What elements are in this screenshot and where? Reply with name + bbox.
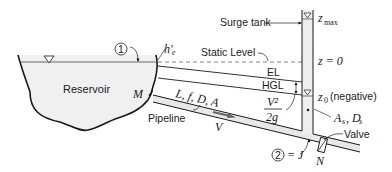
tank-params-s2: s xyxy=(359,117,362,126)
point-j-marker xyxy=(308,140,311,143)
z0-label: z xyxy=(317,90,323,104)
el-label: EL xyxy=(267,66,280,78)
surge-tank-diagram: Surge tank z max z = 0 Static Level EL H… xyxy=(0,0,392,172)
tank-params-a: A xyxy=(333,111,342,125)
hgl-label: HGL xyxy=(262,79,284,91)
he-sub: e xyxy=(172,48,176,57)
tank-marker xyxy=(307,109,310,112)
arrow-down-icon xyxy=(295,91,298,94)
z0-sub: 0 xyxy=(324,96,328,105)
point-m-marker xyxy=(149,94,152,97)
pipeline-label: Pipeline xyxy=(148,112,186,124)
static-level-label: Static Level xyxy=(201,46,255,58)
point-m-label: M xyxy=(132,87,144,101)
velocity-head-denominator: 2g xyxy=(266,110,278,124)
static-level-leader xyxy=(258,53,268,61)
point-2-label: 2 xyxy=(275,149,281,161)
surge-tank xyxy=(302,10,313,134)
z-zero-label: z = 0 xyxy=(317,54,343,68)
valve-label: Valve xyxy=(344,128,370,140)
point-n-label: N xyxy=(315,154,325,168)
zmax-label: z xyxy=(317,11,323,25)
velocity-head-numerator: V² xyxy=(267,95,278,109)
z0-note: (negative) xyxy=(330,90,377,102)
arrow-up-icon xyxy=(295,82,298,85)
velocity-label: V xyxy=(215,120,224,134)
tank-params-leader xyxy=(314,109,331,117)
pipeline-bottom-wall xyxy=(153,102,360,152)
point-j-label: = J xyxy=(287,148,304,162)
zmax-sub: max xyxy=(324,18,338,27)
tank-params-s1: s xyxy=(342,117,345,126)
point-1-label: 1 xyxy=(118,43,124,55)
surge-tank-label: Surge tank xyxy=(220,16,272,28)
reservoir-label: Reservoir xyxy=(63,83,110,95)
velocity-head-leader xyxy=(286,94,295,110)
arrow-icon xyxy=(299,22,303,25)
